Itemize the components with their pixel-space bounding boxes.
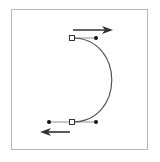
bezier-diagram <box>0 0 160 162</box>
control-handles <box>47 36 98 124</box>
bottom-handle-left <box>47 120 51 124</box>
bezier-curve <box>72 38 112 122</box>
direction-arrow-right-icon <box>73 26 113 34</box>
anchor-points <box>70 36 75 125</box>
direction-arrow-left-icon <box>40 128 70 136</box>
handle-lines <box>49 38 96 122</box>
top-handle-right <box>94 36 98 40</box>
direction-arrows <box>40 26 113 136</box>
bottom-handle-right <box>94 120 98 124</box>
bottom-anchor <box>70 120 75 125</box>
top-anchor <box>70 36 75 41</box>
